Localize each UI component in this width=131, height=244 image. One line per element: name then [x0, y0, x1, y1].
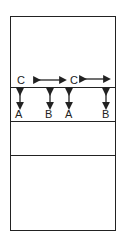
vertical-arrow-icon	[20, 92, 106, 106]
arrows-layer	[0, 0, 131, 244]
